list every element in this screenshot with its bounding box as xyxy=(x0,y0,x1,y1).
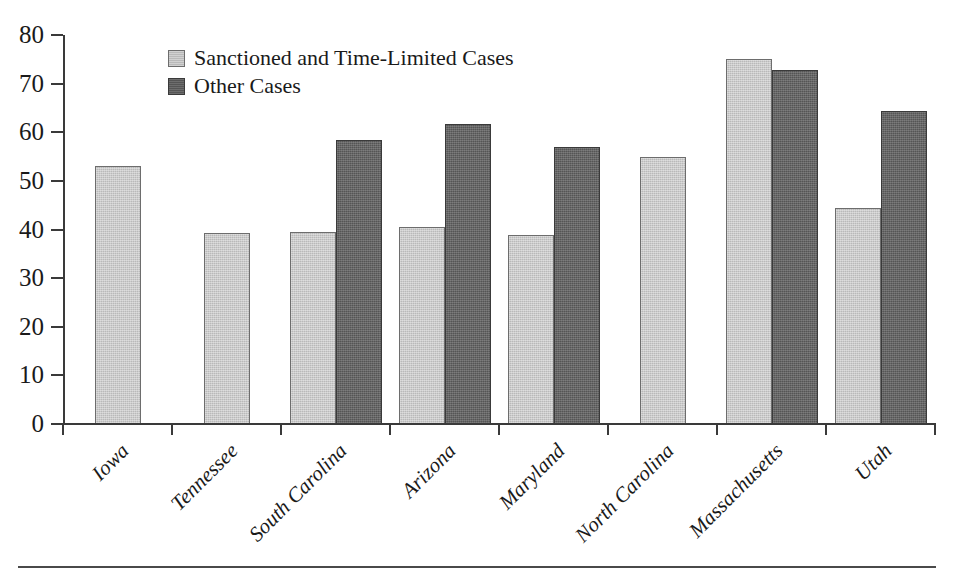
bar-other-arizona xyxy=(445,124,491,425)
bar-sanctioned-south-carolina xyxy=(290,232,336,424)
y-axis-tick-label: 10 xyxy=(0,362,44,387)
bar-sanctioned-maryland xyxy=(508,235,554,424)
chart-legend: Sanctioned and Time-Limited Cases Other … xyxy=(168,44,514,100)
bar-sanctioned-iowa xyxy=(95,166,141,424)
y-axis-tick-label: 20 xyxy=(0,314,44,339)
y-axis-tick xyxy=(51,326,63,328)
y-axis-tick xyxy=(51,374,63,376)
legend-swatch-dark-gray-icon xyxy=(168,78,185,95)
x-axis-tick xyxy=(934,423,936,435)
bar-other-south-carolina xyxy=(336,140,382,424)
bar-sanctioned-arizona xyxy=(399,227,445,424)
x-axis-tick xyxy=(716,423,718,435)
legend-swatch-light-gray-icon xyxy=(168,50,185,67)
bar-sanctioned-north-carolina xyxy=(640,157,686,424)
y-axis-tick-label: 70 xyxy=(0,71,44,96)
x-axis-tick xyxy=(389,423,391,435)
legend-item-sanctioned: Sanctioned and Time-Limited Cases xyxy=(168,44,514,72)
y-axis-tick xyxy=(51,180,63,182)
bar-other-maryland xyxy=(554,147,600,424)
legend-label: Sanctioned and Time-Limited Cases xyxy=(194,47,514,69)
y-axis-tick xyxy=(51,34,63,36)
bar-chart: 80706050403020100 IowaTennesseeSouth Car… xyxy=(0,0,954,582)
x-axis-tick xyxy=(607,423,609,435)
bar-sanctioned-tennessee xyxy=(204,233,250,424)
y-axis-tick-label: 60 xyxy=(0,119,44,144)
y-axis-tick-label: 50 xyxy=(0,168,44,193)
y-axis-tick-label: 40 xyxy=(0,217,44,242)
bar-other-massachusetts xyxy=(772,70,818,424)
bar-sanctioned-massachusetts xyxy=(726,59,772,424)
x-axis-tick xyxy=(498,423,500,435)
y-axis-tick xyxy=(51,83,63,85)
bar-other-utah xyxy=(881,111,927,424)
y-axis-tick-label: 0 xyxy=(0,411,44,436)
legend-item-other: Other Cases xyxy=(168,72,514,100)
x-axis-tick xyxy=(62,423,64,435)
y-axis-tick xyxy=(51,131,63,133)
x-axis-tick xyxy=(280,423,282,435)
x-axis-tick xyxy=(825,423,827,435)
y-axis-tick-label: 80 xyxy=(0,22,44,47)
x-axis-tick xyxy=(171,423,173,435)
y-axis-tick-label: 30 xyxy=(0,265,44,290)
bar-sanctioned-utah xyxy=(835,208,881,424)
bottom-divider xyxy=(18,566,936,568)
legend-label: Other Cases xyxy=(194,75,301,97)
y-axis-tick xyxy=(51,229,63,231)
y-axis-tick xyxy=(51,277,63,279)
